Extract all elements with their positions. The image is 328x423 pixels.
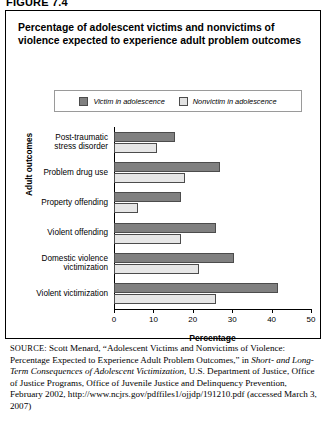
figure-page: FIGURE 7.4 Percentage of adolescent vict… [0, 0, 328, 423]
x-axis-tick-label: 0 [112, 315, 116, 324]
y-axis-title: Adult outcomes [24, 133, 34, 196]
category-label: Violent victimization [36, 289, 108, 299]
bar-group: Property offending [114, 192, 311, 213]
bar-nonvictim [114, 203, 138, 213]
figure-number: FIGURE 7.4 [6, 0, 68, 8]
bar-victim [114, 223, 216, 233]
category-label: Post-traumaticstress disorder [54, 133, 108, 152]
figure-box: Percentage of adolescent victims and non… [5, 10, 321, 339]
legend-label-victim: Victim in adolescence [93, 97, 164, 106]
category-label: Problem drug use [43, 168, 108, 178]
x-axis-tick [153, 309, 154, 313]
x-axis-tick [272, 309, 273, 313]
category-label: Property offending [41, 198, 108, 208]
bar-group: Problem drug use [114, 162, 311, 183]
bar-victim [114, 253, 234, 263]
bar-victim [114, 192, 181, 202]
x-axis-tick [193, 309, 194, 313]
y-axis-line [114, 127, 115, 309]
chart-title: Percentage of adolescent victims and non… [18, 21, 310, 47]
legend-item-victim: Victim in adolescence [79, 97, 164, 106]
bar-victim [114, 283, 278, 293]
chart-legend: Victim in adolescence Nonvictim in adole… [54, 90, 302, 112]
bar-nonvictim [114, 143, 157, 153]
legend-swatch-victim-icon [79, 97, 88, 106]
source-note: SOURCE: Scott Menard, “Adolescent Victim… [10, 343, 320, 412]
bar-victim [114, 162, 220, 172]
x-axis-tick-label: 30 [228, 315, 237, 324]
x-axis-tick-label: 50 [307, 315, 316, 324]
bar-nonvictim [114, 234, 181, 244]
bar-group: Domestic violencevictimization [114, 253, 311, 274]
x-axis-tick-label: 10 [149, 315, 158, 324]
x-axis-tick-label: 40 [267, 315, 276, 324]
bar-nonvictim [114, 294, 216, 304]
category-label: Domestic violencevictimization [42, 254, 108, 273]
x-axis-tick [114, 309, 115, 313]
x-axis-title: Percentage [114, 333, 311, 343]
bar-group: Violent victimization [114, 283, 311, 304]
x-axis-tick-label: 20 [188, 315, 197, 324]
source-prefix: SOURCE: [10, 344, 47, 353]
legend-item-nonvictim: Nonvictim in adolescence [179, 97, 277, 106]
bar-nonvictim [114, 173, 185, 183]
plot-area: 01020304050Post-traumaticstress disorder… [114, 127, 311, 309]
legend-label-nonvictim: Nonvictim in adolescence [193, 97, 277, 106]
x-axis-tick [232, 309, 233, 313]
bar-victim [114, 132, 175, 142]
category-label: Violent offending [47, 228, 108, 238]
x-axis-line [114, 309, 311, 310]
x-axis-tick [311, 309, 312, 313]
source-text-1: Scott Menard, “Adolescent Victims and No… [10, 343, 285, 365]
bar-group: Post-traumaticstress disorder [114, 132, 311, 153]
bar-group: Violent offending [114, 223, 311, 244]
bar-nonvictim [114, 264, 199, 274]
legend-swatch-nonvictim-icon [179, 97, 188, 106]
